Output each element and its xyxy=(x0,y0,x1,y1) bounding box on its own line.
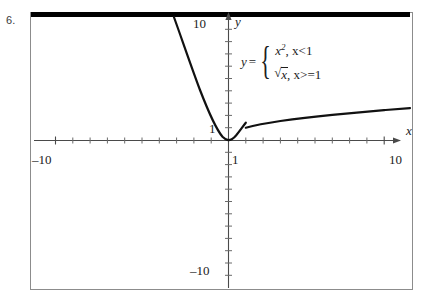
y-axis-label-neg10: –10 xyxy=(190,263,210,279)
x-axis-label-1: 1 xyxy=(232,152,239,168)
y-axis xyxy=(225,12,233,288)
x-axis-name: x xyxy=(406,123,412,139)
equation-brace: { xyxy=(260,41,271,81)
case1-condition: , x<1 xyxy=(286,44,313,59)
x-axis-label-neg10: –10 xyxy=(32,152,52,168)
x-axis-label-10: 10 xyxy=(389,152,402,168)
y-axis-name: y xyxy=(235,14,241,30)
equation-case-1: x2, x<1 xyxy=(275,43,321,57)
curve-sqrt xyxy=(246,108,410,128)
y-axis-label-1: 1 xyxy=(209,121,216,137)
y-axis-label-10: 10 xyxy=(193,16,206,32)
radical-bar xyxy=(281,67,288,68)
equation-cases: x2, x<1 x, x>=1 xyxy=(272,43,321,80)
case2-radicand: x xyxy=(281,67,287,82)
case2-radical: x xyxy=(275,67,287,81)
x-axis xyxy=(34,137,401,145)
piecewise-equation: y = { x2, x<1 x, x>=1 xyxy=(241,41,321,83)
equation-case-2: x, x>=1 xyxy=(275,67,321,81)
equation-equals: = xyxy=(249,54,256,70)
figure-container: 6. xyxy=(0,0,442,298)
graph-canvas xyxy=(0,0,442,298)
case2-condition: , x>=1 xyxy=(287,67,321,82)
equation-lhs: y xyxy=(241,54,247,70)
